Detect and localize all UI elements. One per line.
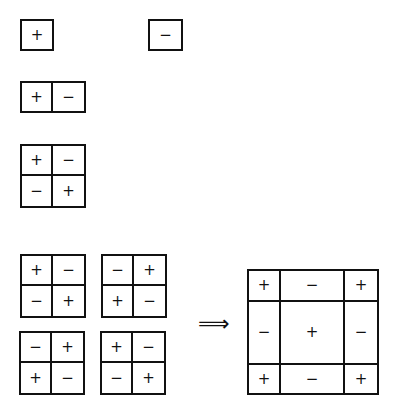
- quad-box-4: + − − +: [100, 331, 166, 395]
- sign-cell: +: [134, 256, 165, 286]
- sign-cell: +: [249, 365, 281, 393]
- sign-cell: −: [133, 333, 164, 363]
- sign-cell: +: [22, 83, 53, 111]
- sign-cell: +: [345, 271, 377, 302]
- sign-cell: +: [249, 271, 281, 302]
- sign-cell: −: [52, 363, 83, 393]
- single-minus-box: −: [148, 19, 183, 51]
- sign-cell: +: [52, 333, 83, 363]
- sign-cell: +: [103, 286, 134, 316]
- sign-cell: +: [133, 363, 164, 393]
- sign-cell: +: [281, 302, 345, 365]
- sign-cell: −: [103, 256, 134, 286]
- sign-cell: −: [281, 365, 345, 393]
- sign-cell: −: [134, 286, 165, 316]
- quad-box-1: + − − +: [20, 254, 86, 318]
- sign-cell: +: [53, 286, 84, 316]
- sign-cell: −: [22, 286, 53, 316]
- sign-cell: +: [345, 365, 377, 393]
- sign-cell: −: [102, 363, 133, 393]
- pair-box: + −: [20, 81, 86, 113]
- sign-cell: +: [102, 333, 133, 363]
- sign-cell: +: [21, 363, 52, 393]
- sign-cell: +: [53, 176, 84, 206]
- sign-cell: −: [22, 176, 53, 206]
- sign-cell: −: [249, 302, 281, 365]
- sign-cell: −: [53, 146, 84, 176]
- sign-cell: +: [22, 21, 52, 49]
- sign-cell: −: [21, 333, 52, 363]
- sign-cell: −: [53, 256, 84, 286]
- result-box: + − + − + − + − +: [247, 269, 379, 395]
- single-plus-box: +: [20, 19, 54, 51]
- checker-box: + − − +: [20, 144, 86, 208]
- sign-cell: −: [281, 271, 345, 302]
- sign-cell: +: [22, 146, 53, 176]
- sign-cell: −: [150, 21, 181, 49]
- implies-arrow-icon: ⟹: [198, 313, 230, 335]
- quad-box-2: − + + −: [101, 254, 167, 318]
- sign-cell: −: [345, 302, 377, 365]
- sign-cell: +: [22, 256, 53, 286]
- quad-box-3: − + + −: [19, 331, 85, 395]
- sign-cell: −: [53, 83, 84, 111]
